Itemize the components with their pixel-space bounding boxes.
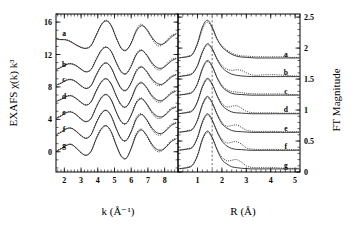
curve-label-c: c <box>284 87 288 96</box>
y-tick-label: 12 <box>44 51 52 60</box>
y-tick-label: 8 <box>48 83 52 92</box>
fit-trace-e <box>178 96 300 132</box>
x-tick-label: 5 <box>112 176 116 185</box>
x-tick-label: 1 <box>196 176 200 185</box>
fit-trace-e <box>56 95 176 124</box>
data-trace-e <box>56 94 176 124</box>
left-panel-plot: 23456780481216abcdefg <box>44 14 178 185</box>
curve-label-d: d <box>284 105 289 114</box>
curve-label-b: b <box>284 68 288 77</box>
fit-trace-b <box>178 44 300 77</box>
right-y-axis-label: FT Magnitude <box>330 68 342 131</box>
fit-trace-g <box>56 126 176 159</box>
curve-label-a: a <box>284 50 288 59</box>
figure-canvas: EXAFS χ(k) k³ 23456780481216abcdefg 1234… <box>0 0 353 228</box>
traces-group <box>56 20 176 159</box>
exafs-figure: EXAFS χ(k) k³ 23456780481216abcdefg 1234… <box>0 0 353 228</box>
data-trace-c <box>56 63 176 92</box>
fit-trace-d <box>56 79 176 107</box>
plot-frame <box>56 14 178 172</box>
data-trace-f <box>56 110 176 142</box>
data-trace-c <box>178 62 300 96</box>
left-y-axis-label: EXAFS χ(k) k³ <box>7 59 20 127</box>
y-tick-label: 0.5 <box>304 137 314 146</box>
y-tick-label: 2.5 <box>304 13 314 22</box>
left-x-axis-label: k (Å⁻¹) <box>102 205 135 218</box>
data-trace-e <box>178 98 300 133</box>
curve-label-c: c <box>62 75 66 84</box>
x-tick-label: 4 <box>269 176 273 185</box>
x-tick-label: 3 <box>244 176 248 185</box>
y-tick-label: 16 <box>44 18 52 27</box>
y-tick-label: 1 <box>304 106 308 115</box>
x-tick-label: 6 <box>129 176 133 185</box>
y-tick-label: 2 <box>304 44 308 53</box>
data-trace-a <box>56 20 176 51</box>
fit-trace-a <box>178 20 300 58</box>
fit-trace-f <box>56 110 176 140</box>
fit-trace-c <box>178 60 300 95</box>
right-x-axis-label: R (Å) <box>230 205 256 218</box>
data-trace-b <box>56 47 176 75</box>
data-trace-d <box>178 80 300 114</box>
curve-label-g: g <box>284 161 288 170</box>
data-trace-a <box>178 22 300 58</box>
fit-trace-d <box>178 78 300 113</box>
right-panel-plot: 1234500.511.522.5abcdefg <box>178 13 314 185</box>
data-trace-d <box>56 78 176 107</box>
y-tick-label: 0 <box>304 168 308 177</box>
x-tick-label: 4 <box>96 176 100 185</box>
x-tick-label: 5 <box>293 176 297 185</box>
plot-frame <box>178 14 300 172</box>
data-trace-b <box>178 45 300 77</box>
curve-label-b: b <box>62 60 66 69</box>
left-ylabel-group: EXAFS χ(k) k³ <box>7 59 20 127</box>
traces-group <box>178 20 300 169</box>
y-tick-label: 4 <box>48 115 52 124</box>
x-tick-label: 8 <box>163 176 167 185</box>
x-tick-label: 3 <box>79 176 83 185</box>
y-tick-label: 1.5 <box>304 75 314 84</box>
x-tick-label: 7 <box>146 176 150 185</box>
y-tick-label: 0 <box>48 148 52 157</box>
x-tick-label: 2 <box>220 176 224 185</box>
curve-label-g: g <box>62 141 66 150</box>
curve-label-a: a <box>62 29 66 38</box>
fit-trace-c <box>56 63 176 90</box>
x-tick-label: 2 <box>62 176 66 185</box>
data-trace-g <box>56 125 176 159</box>
